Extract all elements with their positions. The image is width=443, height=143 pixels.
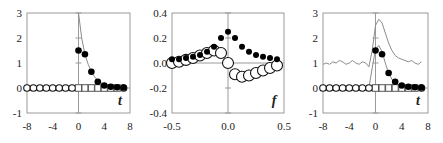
filled-circle-marker (225, 29, 231, 35)
open-circle-marker (326, 85, 333, 92)
x-axis-variable-label: f (272, 93, 278, 108)
open-circle-marker (62, 85, 69, 92)
x-tick-label: -0.5 (163, 120, 181, 132)
open-circle-marker (359, 85, 366, 92)
filled-circle-marker (379, 51, 386, 58)
filled-circle-marker (246, 49, 252, 55)
open-circle-marker (346, 85, 353, 92)
filled-circle-marker (95, 78, 102, 85)
x-tick-label: 4 (102, 120, 108, 132)
filled-circle-marker (392, 78, 399, 85)
y-tick-label: -1 (13, 107, 22, 119)
open-circle-marker (216, 48, 227, 59)
filled-circle-marker (398, 82, 405, 89)
x-axis-variable-label: t (416, 93, 421, 108)
x-tick-label: 0.5 (277, 120, 291, 132)
x-tick-label: 8 (127, 120, 133, 132)
panel-left-time-domain: 3210-1-8-4048t (13, 7, 133, 132)
y-tick-label: 2 (17, 32, 23, 44)
open-square-marker (379, 85, 385, 92)
x-axis-variable-label: t (118, 93, 123, 108)
y-tick-label: 2 (313, 32, 319, 44)
filled-circle-marker (183, 55, 189, 61)
filled-circle-marker (412, 84, 419, 91)
filled-circle-marker (75, 47, 82, 54)
filled-circle-marker (169, 56, 175, 62)
y-tick-label: 3 (17, 7, 23, 19)
filled-circle-marker (274, 56, 280, 62)
open-circle-marker (69, 85, 76, 92)
open-circle-marker (49, 85, 56, 92)
filled-circle-marker (190, 54, 196, 60)
x-tick-label: 0.0 (221, 120, 235, 132)
open-circle-marker (223, 58, 234, 69)
upper-envelope-line (323, 19, 421, 67)
x-tick-label: -4 (345, 120, 355, 132)
filled-circle-marker (405, 83, 412, 90)
y-tick-label: 1 (17, 57, 23, 69)
open-circle-marker (30, 85, 37, 92)
y-tick-label: -0.4 (150, 107, 168, 119)
y-tick-label: 0.4 (153, 7, 167, 19)
x-tick-label: -4 (48, 120, 58, 132)
x-tick-label: -8 (22, 120, 32, 132)
panel-right-time-domain-envelope: 3210-1-8-4048t (309, 7, 431, 132)
filled-circle-marker (120, 84, 127, 91)
filled-circle-marker (204, 49, 210, 55)
filled-circle-marker (218, 35, 224, 41)
filled-circle-marker (260, 54, 266, 60)
filled-circle-marker (211, 44, 217, 50)
y-tick-label: 3 (313, 7, 319, 19)
open-circle-marker (320, 85, 327, 92)
open-circle-marker (353, 85, 360, 92)
open-circle-marker (366, 85, 373, 92)
open-circle-marker (24, 85, 31, 92)
x-tick-label: -8 (318, 120, 328, 132)
open-square-marker (76, 85, 82, 92)
filled-circle-marker (114, 84, 121, 91)
x-tick-label: 0 (76, 120, 82, 132)
filled-circle-marker (372, 47, 379, 54)
open-square-marker (373, 85, 379, 92)
filled-circle-marker (88, 68, 95, 75)
open-circle-marker (339, 85, 346, 92)
filled-circle-marker (82, 51, 89, 58)
y-tick-label: 0.0 (153, 57, 167, 69)
open-square-marker (88, 85, 94, 92)
open-square-marker (392, 85, 398, 92)
open-square-marker (95, 85, 101, 92)
panel-middle-frequency-domain: 0.40.20.0-0.2-0.4-0.50.00.5f (150, 7, 292, 132)
figure: 3210-1-8-4048t 0.40.20.0-0.2-0.4-0.50.00… (0, 0, 443, 143)
x-tick-label: 0 (373, 120, 379, 132)
filled-circle-marker (232, 35, 238, 41)
open-circle-marker (56, 85, 63, 92)
filled-circle-marker (418, 84, 425, 91)
filled-circle-marker (176, 56, 182, 62)
y-tick-label: 0 (17, 82, 23, 94)
y-tick-label: 1 (313, 57, 319, 69)
x-tick-label: 8 (425, 120, 431, 132)
filled-circle-marker (267, 55, 273, 61)
filled-circle-marker (253, 52, 259, 58)
y-tick-label: -1 (309, 107, 318, 119)
filled-circle-marker (239, 44, 245, 50)
x-tick-label: 4 (399, 120, 405, 132)
y-tick-label: -0.2 (150, 82, 167, 94)
open-square-marker (82, 85, 88, 92)
open-circle-marker (43, 85, 50, 92)
open-circle-marker (333, 85, 340, 92)
decay-curve-line (79, 13, 124, 88)
open-square-marker (386, 85, 392, 92)
filled-circle-marker (197, 52, 203, 58)
open-circle-marker (37, 85, 44, 92)
filled-circle-marker (107, 83, 114, 90)
filled-circle-marker (385, 70, 392, 77)
y-tick-label: 0.2 (153, 32, 167, 44)
filled-circle-marker (101, 82, 108, 89)
y-tick-label: 0 (313, 82, 319, 94)
